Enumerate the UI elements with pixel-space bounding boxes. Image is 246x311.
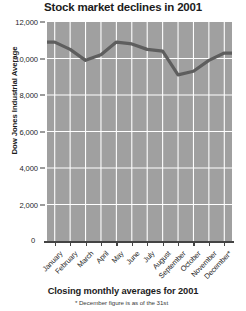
y-tick-label: 6,000 bbox=[19, 127, 38, 136]
x-tick-mark bbox=[86, 241, 87, 246]
x-tick-mark bbox=[55, 241, 56, 246]
x-tick-mark bbox=[116, 241, 117, 246]
y-tick-mark bbox=[40, 168, 45, 169]
x-tick-mark bbox=[209, 241, 210, 246]
y-tick-label: 8,000 bbox=[19, 91, 38, 100]
x-axis-line bbox=[44, 241, 234, 243]
y-tick-mark bbox=[40, 95, 45, 96]
x-tick-label-april: April bbox=[94, 249, 110, 265]
stock-market-chart: Stock market declines in 2001 12,00010,0… bbox=[0, 0, 246, 311]
x-tick-label-march: March bbox=[75, 249, 95, 269]
y-tick-mark bbox=[40, 58, 45, 59]
x-tick-mark bbox=[101, 241, 102, 246]
y-axis-title: Dow Jones Industrial Average bbox=[10, 36, 19, 166]
x-tick-label-may: May bbox=[110, 249, 126, 265]
x-tick-mark bbox=[193, 241, 194, 246]
y-tick-label: 10,000 bbox=[15, 54, 38, 63]
y-tick-mark bbox=[40, 22, 45, 23]
y-tick-label: 4,000 bbox=[19, 164, 38, 173]
x-tick-mark bbox=[70, 241, 71, 246]
chart-caption: Closing monthly averages for 2001 bbox=[0, 286, 246, 296]
x-tick-mark bbox=[163, 241, 164, 246]
plot-area bbox=[47, 22, 232, 241]
y-tick-label: 2,000 bbox=[19, 200, 38, 209]
x-tick-mark bbox=[224, 241, 225, 246]
x-tick-mark bbox=[132, 241, 133, 246]
x-tick-mark bbox=[178, 241, 179, 246]
series-line bbox=[47, 22, 232, 241]
page-title: Stock market declines in 2001 bbox=[0, 1, 246, 13]
x-tick-mark bbox=[147, 241, 148, 246]
chart-footnote: * December figure is as of the 31st bbox=[0, 299, 243, 306]
y-tick-zero: 0 bbox=[31, 236, 35, 245]
y-tick-label: 12,000 bbox=[15, 18, 38, 27]
x-tick-label-june: June bbox=[124, 249, 141, 266]
y-tick-mark bbox=[40, 204, 45, 205]
y-axis: 12,00010,0008,0006,0004,0002,000 bbox=[0, 14, 47, 254]
y-tick-mark bbox=[40, 131, 45, 132]
